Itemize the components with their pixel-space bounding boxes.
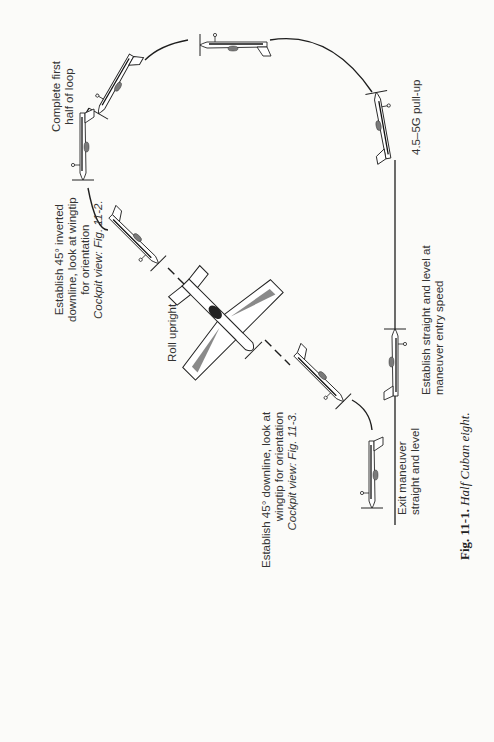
label-inverted-downline: Establish 45° inverted downline, look at… xyxy=(53,197,105,322)
label-downline: Establish 45° downline, look at wingtip … xyxy=(260,412,299,568)
label-line: straight and level xyxy=(409,428,422,515)
figure-title: Half Cuban eight. xyxy=(457,412,472,506)
plane-entry xyxy=(384,329,407,400)
exit-arc xyxy=(352,400,372,430)
plane-roll-upright xyxy=(140,237,297,394)
plane-loop-descending xyxy=(88,46,143,119)
plane-pull-up xyxy=(365,90,400,164)
label-line: for orientation xyxy=(79,197,92,322)
cockpit-view-reference: Cockpit view: Fig. 11-3. xyxy=(286,412,299,568)
label-roll-upright: Roll upright xyxy=(166,304,179,362)
label-line: Establish 45° inverted xyxy=(53,197,66,322)
label-line: downline, look at wingtip xyxy=(66,197,79,322)
plane-inverted-downline xyxy=(100,205,166,271)
figure-caption: Fig. 11-1. Half Cuban eight. xyxy=(457,412,473,560)
plane-loop-top xyxy=(200,33,271,56)
plane-exit xyxy=(360,437,383,508)
label-entry: Establish straight and level at maneuver… xyxy=(420,245,446,395)
label-exit: Exit maneuver straight and level xyxy=(396,428,422,515)
figure-number: Fig. 11-1. xyxy=(457,509,472,560)
label-pull-up: 4.5–5G pull-up xyxy=(410,80,423,155)
cockpit-view-reference: Cockpit view: Fig. 11-2. xyxy=(92,197,105,322)
label-line: wingtip for orientation xyxy=(273,412,286,568)
label-line: maneuver entry speed xyxy=(433,245,446,395)
label-line: Complete first xyxy=(50,61,63,132)
label-line: half of loop xyxy=(63,61,76,132)
label-line: Establish 45° downline, look at xyxy=(260,412,273,568)
label-complete-first-half: Complete first half of loop xyxy=(50,61,76,132)
label-line: Exit maneuver xyxy=(396,428,409,515)
label-line: Establish straight and level at xyxy=(420,245,433,395)
plane-downline xyxy=(285,343,351,409)
label-line: 4.5–5G pull-up xyxy=(410,80,423,155)
label-line: Roll upright xyxy=(166,304,179,362)
